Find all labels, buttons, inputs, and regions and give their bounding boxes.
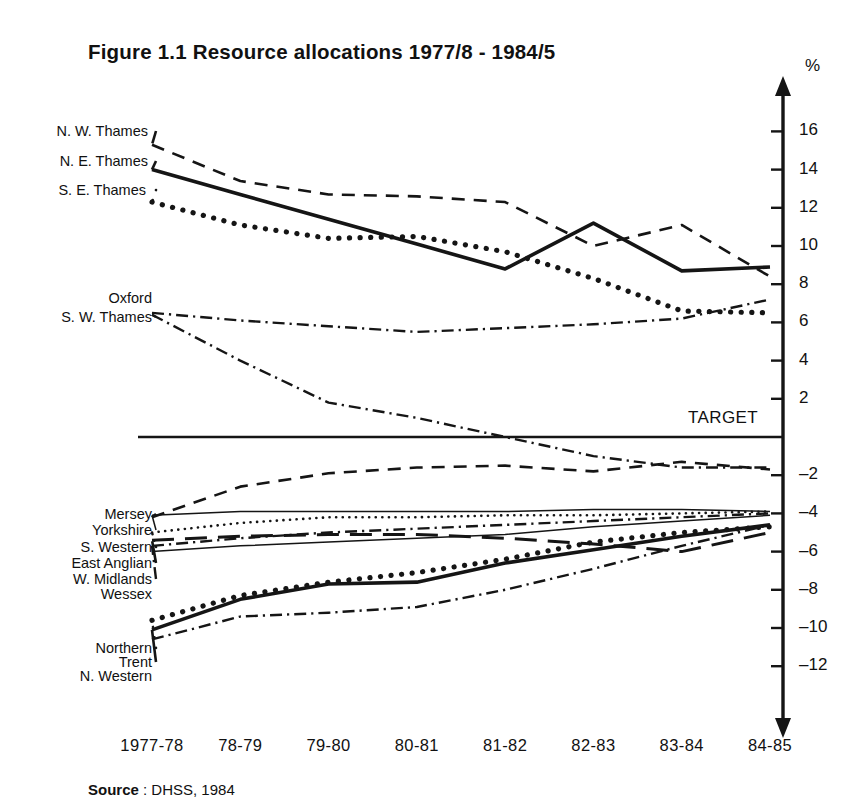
y-tick-label: 14 <box>799 159 818 179</box>
y-tick-label: –4 <box>799 502 818 522</box>
source-value: : DHSS, 1984 <box>139 781 235 798</box>
source-note: Source : DHSS, 1984 <box>88 781 235 798</box>
series-label-yorkshire: Yorkshire <box>92 522 152 538</box>
series-label-s-e-thames: S. E. Thames <box>58 182 146 198</box>
y-tick-label: 10 <box>799 235 818 255</box>
series-line-trent <box>152 525 770 630</box>
y-axis-arrow-down <box>775 718 791 738</box>
series-label-n-e-thames: N. E. Thames <box>60 153 148 169</box>
x-tick-label: 83-84 <box>660 736 704 755</box>
y-axis-unit-label: % <box>805 56 820 76</box>
chart-plot-area <box>0 0 865 811</box>
x-tick-label: 79-80 <box>306 736 350 755</box>
series-line-w-midlands <box>152 513 770 545</box>
series-group <box>152 145 770 640</box>
y-tick-label: 16 <box>799 120 818 140</box>
series-line-n-western <box>152 525 770 640</box>
x-tick-label: 81-82 <box>483 736 527 755</box>
series-label-east-anglian: East Anglian <box>71 555 152 571</box>
y-tick-label: –2 <box>799 464 818 484</box>
y-tick-label: –12 <box>799 655 827 675</box>
series-leader-line <box>152 161 156 170</box>
y-axis-arrow-up <box>775 76 791 96</box>
series-label-s-w-thames: S. W. Thames <box>61 309 152 325</box>
x-tick-label: 82-83 <box>571 736 615 755</box>
x-tick-label: 1977-78 <box>120 736 183 755</box>
x-tick-label: 84-85 <box>748 736 792 755</box>
series-line-oxford <box>152 299 770 331</box>
series-leader-line <box>152 190 156 202</box>
y-tick-label: –10 <box>799 617 827 637</box>
x-tick-label: 80-81 <box>395 736 439 755</box>
series-line-s-w-thames <box>152 315 770 468</box>
y-tick-label: –6 <box>799 541 818 561</box>
y-tick-label: –8 <box>799 579 818 599</box>
x-tick-label: 78-79 <box>218 736 262 755</box>
series-label-w-midlands: W. Midlands <box>73 571 152 587</box>
series-leader-line <box>152 315 156 317</box>
series-label-oxford: Oxford <box>108 290 152 306</box>
series-leader-line <box>152 630 156 662</box>
y-tick-label: 4 <box>799 350 808 370</box>
y-tick-label: 8 <box>799 273 808 293</box>
y-tick-label: 6 <box>799 311 808 331</box>
series-line-n-e-thames <box>152 170 770 271</box>
target-annotation: TARGET <box>688 408 758 428</box>
y-tick-label: 2 <box>799 388 808 408</box>
series-label-mersey: Mersey <box>104 506 152 522</box>
source-key: Source <box>88 781 139 798</box>
axis-group <box>138 76 791 738</box>
label-leader-lines <box>152 131 156 662</box>
series-label-n-w-thames: N. W. Thames <box>56 123 148 139</box>
y-tick-label: 12 <box>799 197 818 217</box>
series-label-n-western: N. Western <box>80 668 152 684</box>
series-label-s-western: S. Western <box>81 539 152 555</box>
series-leader-line <box>152 131 156 145</box>
figure-container: Figure 1.1 Resource allocations 1977/8 -… <box>0 0 865 811</box>
series-label-wessex: Wessex <box>101 586 152 602</box>
series-line-yorkshire <box>152 510 770 516</box>
